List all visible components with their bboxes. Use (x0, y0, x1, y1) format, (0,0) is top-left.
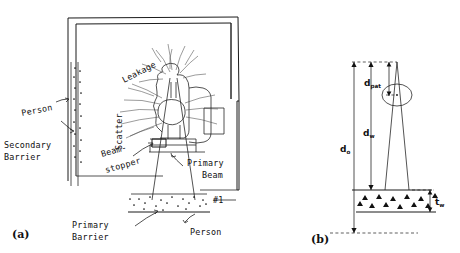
svg-text:dw: dw (363, 128, 375, 139)
d-w-subscript: w (369, 133, 374, 139)
primary-beam-label-line2: Beam (202, 170, 223, 180)
primary-barrier-label-line2: Barrier (72, 232, 109, 242)
dimension-d-pat (387, 62, 392, 96)
beam-stopper-label-line2: stopper (104, 155, 142, 175)
svg-text:do: do (340, 144, 350, 155)
person-primary-label: Person (190, 227, 221, 237)
barrier-concrete-fill (357, 193, 438, 209)
beam-target-point (385, 62, 409, 190)
d-o-subscript: o (346, 149, 350, 155)
label-t-w: tw (435, 197, 444, 208)
caption-panel-a: (a) (12, 228, 30, 241)
leakage-label: Leakage (120, 59, 157, 85)
person-secondary-label: Person (20, 102, 53, 118)
dimension-d-o (351, 62, 356, 233)
secondary-barrier-slab (71, 62, 78, 186)
beam-stopper-label-line1: Beam- (100, 142, 128, 159)
primary-beam-label-line1: Primary (187, 158, 224, 168)
caption-panel-b: (b) (311, 233, 329, 246)
label-d-w: dw (363, 128, 375, 139)
scatter-rays (120, 84, 218, 138)
point-marker-label: #1 (213, 195, 223, 205)
secondary-barrier-dots (73, 67, 82, 163)
label-d-pat: dpat (364, 78, 381, 90)
outer-room-wall (68, 17, 239, 181)
svg-text:dpat: dpat (364, 78, 381, 90)
label-d-o: do (340, 144, 350, 155)
d-pat-subscript: pat (370, 83, 381, 90)
primary-barrier-label-line1: Primary (72, 220, 109, 230)
panel-b: dpat dw do tw (b) (311, 62, 444, 246)
secondary-barrier-label-line2: Barrier (4, 152, 41, 162)
t-w-subscript: w (439, 202, 444, 208)
primary-barrier-slab (128, 194, 210, 212)
panel-a: Person Secondary Barrier Leakage Scatter… (4, 17, 239, 242)
svg-text:tw: tw (435, 197, 444, 208)
diagram-svg: Person Secondary Barrier Leakage Scatter… (0, 0, 460, 253)
beam-stopper-block (152, 139, 166, 147)
figure-container: Person Secondary Barrier Leakage Scatter… (0, 0, 460, 253)
dimension-t-w (428, 190, 433, 212)
secondary-barrier-label-line1: Secondary (4, 140, 51, 150)
inner-room-wall (76, 23, 231, 176)
